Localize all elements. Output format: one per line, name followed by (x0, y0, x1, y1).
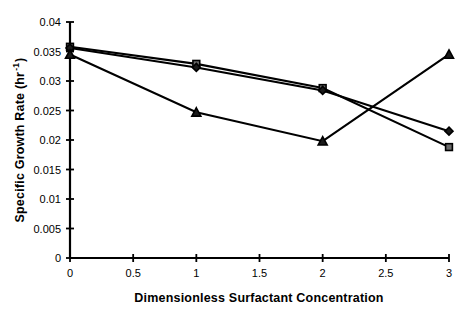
x-tick-label: 2 (320, 267, 326, 279)
series-line (70, 54, 449, 141)
y-tick-label: 0 (55, 252, 61, 264)
data-point-diamond (445, 127, 453, 135)
y-tick-label: 0.01 (40, 193, 61, 205)
x-tick-label: 2.5 (378, 267, 393, 279)
x-tick-label: 1 (193, 267, 199, 279)
x-tick-label: 3 (446, 267, 452, 279)
series-square (67, 43, 453, 150)
series-line (70, 47, 449, 147)
data-point-triangle (192, 108, 201, 116)
x-axis-group: 00.511.522.53 (67, 254, 452, 279)
y-tick-label: 0.025 (33, 105, 61, 117)
x-tick-label: 0 (67, 267, 73, 279)
y-axis-title-group: Specific Growth Rate (hr-1) (11, 58, 27, 223)
y-tick-label: 0.02 (40, 134, 61, 146)
x-tick-label: 0.5 (126, 267, 141, 279)
line-chart: 00.0050.010.0150.020.0250.030.0350.04 00… (0, 0, 472, 312)
y-tick-label: 0.04 (40, 16, 61, 28)
y-axis-tick-labels: 00.0050.010.0150.020.0250.030.0350.04 (33, 16, 61, 264)
y-tick-label: 0.005 (33, 223, 61, 235)
x-axis-title: Dimensionless Surfactant Concentration (134, 291, 383, 305)
data-point-triangle (445, 50, 454, 58)
x-tick-label: 1.5 (252, 267, 267, 279)
chart-container: 00.0050.010.0150.020.0250.030.0350.04 00… (0, 0, 472, 312)
x-axis-tick-labels: 00.511.522.53 (67, 267, 452, 279)
y-tick-label: 0.03 (40, 75, 61, 87)
y-tick-label: 0.035 (33, 46, 61, 58)
data-point-square (446, 144, 453, 151)
series-layer (66, 43, 454, 150)
series-triangle (66, 50, 454, 145)
series-line (70, 48, 449, 131)
y-tick-label: 0.015 (33, 164, 61, 176)
y-axis-title: Specific Growth Rate (hr-1) (11, 58, 27, 223)
